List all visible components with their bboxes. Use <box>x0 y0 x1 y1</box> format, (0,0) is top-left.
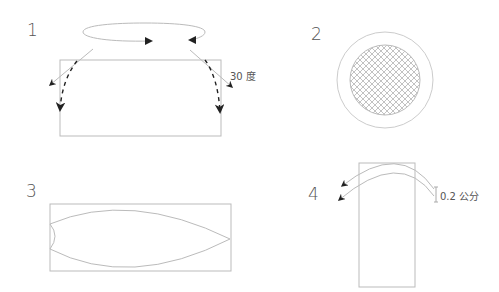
inner-arc-arrow <box>339 173 434 200</box>
step-number-4: 4 <box>308 184 319 204</box>
right-dashed-arrow <box>205 60 220 112</box>
panel-3 <box>50 204 231 271</box>
panel-2 <box>337 32 433 128</box>
angle-label: 30 度 <box>230 68 256 83</box>
left-solid-arrow <box>50 49 93 85</box>
rotation-arrowhead-left <box>188 36 196 44</box>
rotation-ellipse <box>83 23 205 41</box>
panel-1 <box>50 23 232 136</box>
hatched-inner-circle <box>350 45 420 115</box>
panel-4 <box>339 163 438 287</box>
right-solid-arrow <box>190 50 232 87</box>
step-number-1: 1 <box>27 20 38 40</box>
lens-shape <box>50 210 230 267</box>
thickness-label: 0.2 公分 <box>440 188 479 203</box>
panel-1-rectangle <box>60 60 221 136</box>
diagram-canvas <box>0 0 499 292</box>
rotation-arrowhead-right <box>145 37 153 45</box>
panel-4-rectangle <box>359 163 415 287</box>
outer-arc-arrow <box>342 164 434 189</box>
lens-end-curve <box>50 224 55 249</box>
step-number-3: 3 <box>26 181 37 201</box>
step-number-2: 2 <box>311 24 322 44</box>
panel-3-rectangle <box>50 204 231 271</box>
left-dashed-arrow <box>60 61 77 110</box>
